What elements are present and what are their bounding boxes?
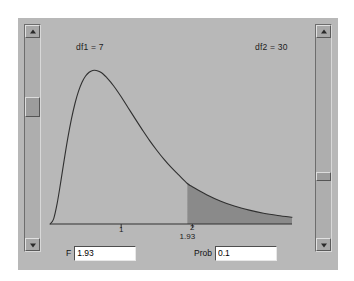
f-value-input[interactable] — [74, 246, 136, 261]
f-distribution-plot: df1 = 7 df2 = 30 1 2 1.93 — [42, 20, 314, 246]
f-field-group: F — [66, 244, 136, 262]
controls-row: F Prob — [18, 244, 338, 262]
prob-value-input[interactable] — [215, 246, 277, 261]
df2-scrollbar-thumb[interactable] — [316, 172, 331, 181]
triangle-up-icon — [321, 29, 327, 33]
x-tick-label-2: 2 — [185, 223, 199, 232]
df2-annotation: df2 = 30 — [255, 42, 288, 52]
x-axis-ticks — [121, 224, 192, 228]
df2-scrollbar-up-button[interactable] — [316, 25, 331, 38]
triangle-up-icon — [30, 29, 36, 33]
df2-scrollbar[interactable] — [315, 24, 332, 252]
prob-field-label: Prob — [194, 248, 212, 258]
df1-annotation: df1 = 7 — [76, 42, 104, 52]
df1-scrollbar-up-button[interactable] — [25, 25, 40, 38]
density-curve — [50, 70, 292, 224]
f-field-label: F — [66, 248, 71, 258]
df1-scrollbar[interactable] — [24, 24, 41, 252]
applet-panel: df1 = 7 df2 = 30 1 2 1.93 F Prob — [18, 18, 338, 270]
prob-field-group: Prob — [194, 244, 277, 262]
critical-value-annotation: 1.93 — [172, 232, 202, 241]
x-tick-label-1: 1 — [114, 225, 128, 234]
distribution-curve-svg — [42, 20, 314, 246]
right-tail-shaded-region — [187, 184, 292, 224]
df1-scrollbar-thumb[interactable] — [25, 97, 40, 117]
